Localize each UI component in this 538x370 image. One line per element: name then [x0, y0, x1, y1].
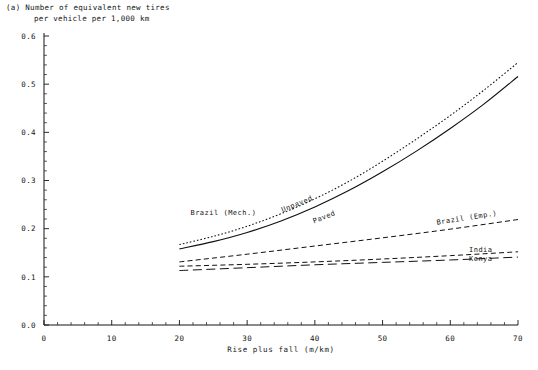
x-axis-title: Rise plus fall (m/km)	[227, 345, 334, 354]
figure-panel-a: (a) Number of equivalent new tires per v…	[0, 0, 538, 370]
series-line-kenya	[179, 257, 518, 270]
x-tick-label: 20	[175, 334, 185, 343]
y-tick-label: 0.6	[21, 32, 36, 41]
y-axis-tick-labels: 0.00.10.20.30.40.50.6	[21, 32, 36, 330]
y-tick-label: 0.5	[21, 80, 36, 89]
paved-label: Paved	[312, 209, 337, 225]
x-axis-tick-labels: 010203040506070	[42, 334, 523, 343]
brazil-emp-label: Brazil (Emp.)	[436, 209, 498, 226]
x-tick-label: 60	[445, 334, 455, 343]
chart-axes	[44, 33, 518, 325]
kenya-label: Kenya	[469, 255, 493, 263]
x-tick-label: 0	[42, 334, 47, 343]
y-tick-label: 0.1	[21, 273, 36, 282]
x-tick-label: 70	[513, 334, 523, 343]
x-axis-ticks	[44, 320, 518, 325]
india-label: India	[469, 246, 493, 254]
y-tick-label: 0.2	[21, 224, 36, 233]
x-tick-label: 50	[378, 334, 388, 343]
x-tick-label: 30	[242, 334, 252, 343]
y-tick-label: 0.4	[21, 128, 36, 137]
line-chart: 0.00.10.20.30.40.50.6 010203040506070 Br…	[0, 0, 538, 370]
y-tick-label: 0.0	[21, 321, 36, 330]
brazil-mech-label: Brazil (Mech.)	[190, 209, 256, 217]
y-tick-label: 0.3	[21, 176, 36, 185]
y-axis-ticks	[44, 36, 49, 325]
unpaved-label: Unpaved	[280, 194, 314, 214]
x-tick-label: 10	[107, 334, 117, 343]
x-tick-label: 40	[310, 334, 320, 343]
chart-series-group	[179, 62, 518, 270]
series-line-brazil-emp	[179, 220, 518, 262]
